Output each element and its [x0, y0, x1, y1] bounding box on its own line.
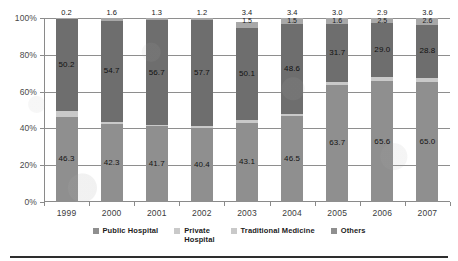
bar-segment: 28.8: [416, 25, 438, 78]
top-value-callout: 1.6: [106, 9, 116, 17]
bar-segment: 43.1: [236, 123, 258, 202]
legend-swatch-icon: [93, 228, 99, 234]
chart-legend: Public HospitalPrivate HospitalTradition…: [0, 226, 458, 245]
bar-segment: 54.7: [101, 21, 123, 122]
x-tick-mark: [134, 202, 135, 206]
bar-segment: [326, 82, 348, 85]
bar-segment: 42.3: [101, 124, 123, 202]
segment-value-label: 42.3: [104, 159, 120, 167]
bar-segment: 50.1: [236, 28, 258, 120]
bar-segment: [56, 111, 78, 117]
segment-value-label: 46.5: [284, 155, 300, 163]
bar-segment: [146, 125, 168, 126]
y-tick-label: 0%: [25, 197, 38, 207]
x-tick-mark: [405, 202, 406, 206]
x-tick-mark: [89, 202, 90, 206]
bar-stack: 40.457.7: [191, 18, 213, 202]
x-tick-mark: [360, 202, 361, 206]
bar-stack: 65.629.0: [371, 18, 393, 202]
legend-label: Others: [341, 226, 366, 235]
segment-value-label: 57.7: [194, 69, 210, 77]
y-tick-label: 60%: [20, 87, 37, 97]
stacked-bar-chart: 0%20%40%60%80%100% 46.350.20.242.354.71.…: [0, 0, 458, 261]
y-tick-label: 100%: [15, 13, 37, 23]
legend-item[interactable]: Others: [331, 226, 366, 235]
x-tick-mark: [179, 202, 180, 206]
callout-primary: 3.4: [287, 9, 297, 17]
segment-value-label: 29.0: [374, 46, 390, 54]
segment-value-label: 31.7: [329, 49, 345, 57]
bar-segment: [191, 126, 213, 127]
bar-stack: 42.354.7: [101, 18, 123, 202]
bar-segment: 57.7: [191, 20, 213, 126]
bar-segment: [326, 18, 348, 24]
y-tick-mark: [40, 55, 44, 56]
bar-segment: [281, 18, 303, 24]
bottom-rule: [10, 256, 448, 258]
bar-segment: 41.7: [146, 125, 168, 202]
callout-primary: 3.4: [242, 9, 252, 17]
segment-value-label: 41.7: [149, 160, 165, 168]
bar-stack: 63.731.7: [326, 18, 348, 202]
x-axis-label: 2007: [418, 208, 438, 218]
segment-value-label: 28.8: [419, 47, 435, 55]
legend-label: Traditional Medicine: [241, 226, 315, 235]
legend-item[interactable]: Private Hospital: [174, 226, 214, 245]
bar-segment: 46.5: [281, 116, 303, 202]
x-tick-mark: [270, 202, 271, 206]
x-axis-label: 2005: [327, 208, 347, 218]
legend-item[interactable]: Traditional Medicine: [231, 226, 315, 235]
bar-segment: [236, 22, 258, 28]
callout-primary: 2.9: [377, 9, 387, 17]
segment-value-label: 65.0: [419, 138, 435, 146]
segment-value-label: 63.7: [329, 139, 345, 147]
bar-stack: 43.150.1: [236, 18, 258, 202]
x-axis-label: 1999: [57, 208, 77, 218]
bar-segment: 65.6: [371, 81, 393, 202]
x-tick-mark: [315, 202, 316, 206]
bar-segment: [191, 18, 213, 20]
legend-item[interactable]: Public Hospital: [93, 226, 159, 235]
bar-segment: 63.7: [326, 85, 348, 202]
bar-segment: [371, 77, 393, 82]
bar-segment: [236, 120, 258, 123]
x-axis-label: 2003: [237, 208, 257, 218]
callout-primary: 1.2: [197, 9, 207, 17]
callout-primary: 1.6: [106, 9, 116, 17]
callout-primary: 3.6: [422, 9, 432, 17]
segment-value-label: 40.4: [194, 161, 210, 169]
x-tick-mark: [224, 202, 225, 206]
callout-primary: 1.3: [152, 9, 162, 17]
x-axis-label: 2001: [147, 208, 167, 218]
bar-segment: 50.2: [56, 18, 78, 110]
top-value-callout: 1.3: [152, 9, 162, 17]
x-axis-label: 2006: [372, 208, 392, 218]
y-tick-mark: [40, 128, 44, 129]
bar-segment: 40.4: [191, 128, 213, 202]
callout-primary: 0.2: [61, 9, 71, 17]
segment-value-label: 43.1: [239, 158, 255, 166]
bar-segment: 31.7: [326, 24, 348, 82]
y-tick-mark: [40, 165, 44, 166]
bar-segment: [371, 18, 393, 23]
legend-swatch-icon: [174, 228, 180, 234]
bar-segment: [101, 122, 123, 125]
bar-stack: 41.756.7: [146, 18, 168, 202]
segment-value-label: 65.6: [374, 138, 390, 146]
bar-segment: 65.0: [416, 82, 438, 202]
segment-value-label: 56.7: [149, 69, 165, 77]
bar-segment: 29.0: [371, 23, 393, 76]
top-value-callout: 0.2: [61, 9, 71, 17]
bar-segment: [416, 78, 438, 83]
callout-primary: 3.0: [332, 9, 342, 17]
segment-value-label: 48.6: [284, 65, 300, 73]
y-tick-mark: [40, 92, 44, 93]
y-tick-mark: [40, 18, 44, 19]
bar-segment: 46.3: [56, 117, 78, 202]
x-axis-label: 2002: [192, 208, 212, 218]
y-tick-label: 80%: [20, 50, 37, 60]
y-axis-line: [44, 18, 45, 202]
x-axis-label: 2004: [282, 208, 302, 218]
segment-value-label: 46.3: [59, 155, 75, 163]
x-axis-label: 2000: [102, 208, 122, 218]
